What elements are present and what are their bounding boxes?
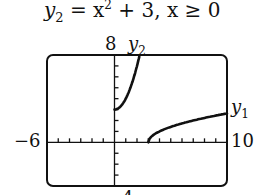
viewing-window-frame xyxy=(47,55,227,186)
graph-window xyxy=(0,0,260,195)
y2-curve xyxy=(115,57,140,110)
curves xyxy=(115,57,228,143)
axes xyxy=(47,55,227,186)
y1-curve xyxy=(148,114,227,143)
